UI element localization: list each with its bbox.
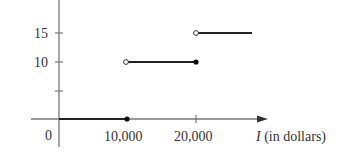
x-axis-arrow-icon: [257, 116, 268, 123]
open-dot-20000-15: [194, 31, 199, 36]
y-tick-label-10: 10: [34, 55, 48, 70]
step-function-chart: 15 10 0 10,000 20,000 I (in dollars): [0, 0, 340, 152]
x-tick-label-10000: 10,000: [104, 129, 143, 144]
x-tick-label-20000: 20,000: [174, 129, 213, 144]
y-tick-label-15: 15: [34, 26, 48, 41]
origin-label: 0: [45, 128, 52, 143]
closed-dot-10000-0: [124, 116, 129, 121]
closed-dot-20000-10: [193, 59, 198, 64]
x-axis-label: I (in dollars): [255, 129, 326, 145]
open-dot-10000-10: [124, 60, 129, 65]
